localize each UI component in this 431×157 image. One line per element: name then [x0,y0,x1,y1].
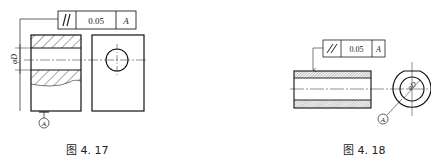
figure-caption-4-18: 图 4. 18 [343,141,386,157]
leader-arrow [313,48,323,70]
datum-reference: A [375,45,381,54]
datum-reference: A [122,16,129,26]
figure-4-18: 0.05 A φD A [290,40,431,124]
diameter-label: φD [10,54,19,64]
figure-4-17: 0.05 A φD A [10,11,148,128]
feature-control-frame: 0.05 A [323,40,385,57]
parallelism-icon [327,44,337,53]
tolerance-value: 0.05 [350,45,364,54]
datum-label: A [41,120,47,128]
feature-control-frame: 0.05 A [58,11,136,29]
leader-line [20,19,58,111]
datum-symbol: A [39,112,49,128]
tolerance-value: 0.05 [88,16,104,26]
datum-symbol: A [378,99,402,124]
datum-label: A [380,116,386,124]
end-view [92,35,144,111]
diameter-label: φD [406,80,418,92]
figure-caption-4-17: 图 4. 17 [66,141,109,157]
section-view [24,35,148,111]
technical-drawings: 0.05 A φD A [0,0,431,157]
parallelism-icon [63,14,70,26]
diameter-dimension: φD [10,44,31,74]
